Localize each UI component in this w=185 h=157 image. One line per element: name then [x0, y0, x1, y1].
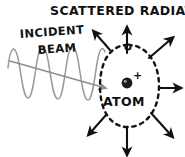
incident-beam-label-line1: INCIDENT [19, 23, 85, 41]
atom-label: ATOM [103, 94, 145, 109]
incident-beam-label-line2: BEAM [37, 40, 76, 57]
scattered-arrow-down-right [151, 113, 170, 134]
scattered-radiation-diagram: + SCATTERED RADIATION INCIDENT [0, 0, 185, 157]
scattered-arrow-up-left [96, 34, 110, 50]
nucleus-charge-label: + [133, 69, 143, 82]
incident-beam-arrow [10, 61, 102, 87]
scattered-arrow-up-right [149, 40, 170, 58]
title-scattered-radiation: SCATTERED RADIATION [50, 3, 185, 18]
diagram-canvas: + SCATTERED RADIATION INCIDENT [0, 0, 185, 157]
nucleus [122, 78, 133, 89]
scattered-arrow-down-left [91, 115, 106, 132]
